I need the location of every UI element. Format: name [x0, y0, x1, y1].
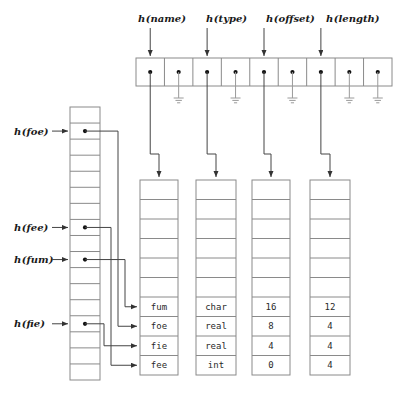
column-cell-value: 8	[268, 321, 273, 331]
column-cell-value: 4	[327, 360, 332, 370]
symbol-hash-array-outline	[70, 107, 100, 380]
diagram-canvas: h(name)h(type)h(offset)h(length) h(foe)h…	[0, 0, 404, 399]
column-cell-value: 16	[266, 302, 277, 312]
h-length-label: h(length)	[326, 13, 380, 24]
column-cell-value: int	[208, 360, 224, 370]
column-cell-value: 4	[268, 341, 273, 351]
h-fum-label: h(fum)	[14, 254, 54, 265]
columns-group: fumfoefiefeecharrealrealint1684012444	[140, 180, 350, 375]
h-offset-label: h(offset)	[266, 13, 315, 24]
column-cell-value: 4	[327, 321, 332, 331]
left-table-group	[70, 107, 100, 380]
column-cell-value: real	[205, 321, 227, 331]
bucket-to-column-wire	[264, 72, 271, 177]
bucket-to-column-wire	[321, 72, 330, 177]
h-foe-label: h(foe)	[14, 126, 49, 137]
column-cell-value: 0	[268, 360, 273, 370]
bucket-to-column-wire	[150, 72, 159, 177]
column-cell-value: foe	[151, 321, 167, 331]
column-cell-value: real	[205, 341, 227, 351]
hash-table-diagram: h(name)h(type)h(offset)h(length) h(foe)h…	[0, 0, 404, 399]
column-cell-value: 12	[325, 302, 336, 312]
h-name-label: h(name)	[138, 13, 186, 24]
bucket-to-column-wire	[207, 72, 216, 177]
column-cell-value: char	[205, 302, 227, 312]
left-labels-group: h(foe)h(fee)h(fum)h(fie)	[14, 126, 68, 330]
h-type-label: h(type)	[206, 13, 247, 24]
column-cell-value: fee	[151, 360, 167, 370]
h-fee-label: h(fee)	[14, 222, 49, 233]
column-cell-value: fum	[151, 302, 167, 312]
column-cell-value: 4	[327, 341, 332, 351]
h-fie-label: h(fie)	[14, 318, 45, 329]
column-cell-value: fie	[151, 341, 167, 351]
drop-wires-group	[150, 72, 383, 177]
top-labels-group: h(name)h(type)h(offset)h(length)	[138, 13, 380, 56]
